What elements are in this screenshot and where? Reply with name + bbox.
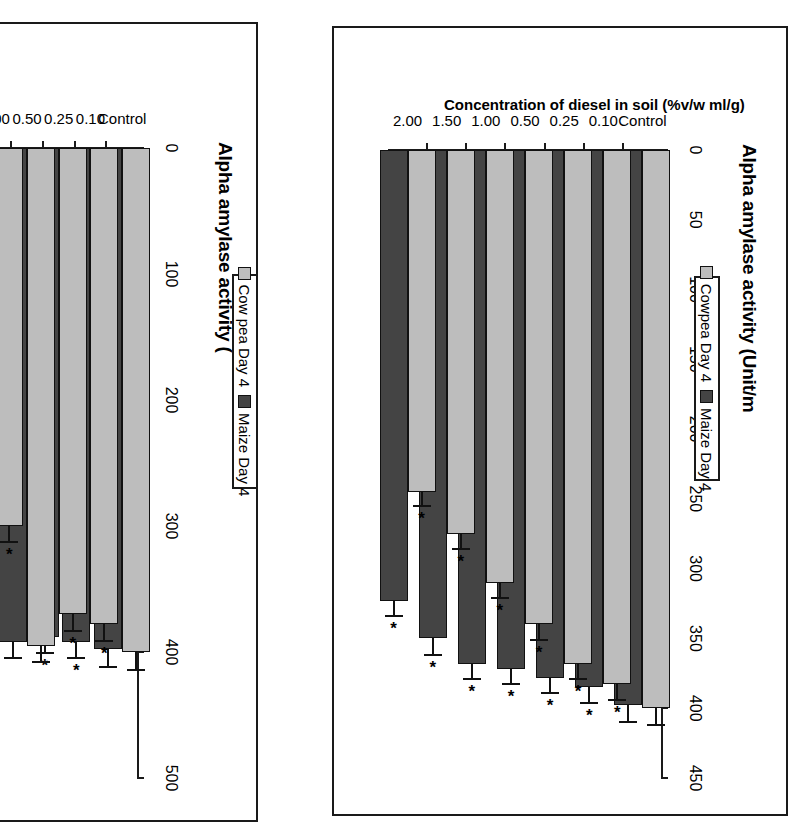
category-axis-label: 1.50 <box>432 112 461 129</box>
value-axis-tick-label: 100 <box>162 254 180 294</box>
significance-marker: * <box>418 509 425 529</box>
significance-marker: * <box>586 706 593 726</box>
legend-swatch-cowpea-icon <box>239 267 252 280</box>
error-bar <box>486 583 514 584</box>
category-axis-tick-mark <box>42 141 44 148</box>
error-bar <box>603 684 631 685</box>
legend-swatch-cowpea-icon <box>701 266 714 279</box>
error-bar <box>525 624 553 625</box>
error-bar <box>94 649 122 650</box>
bar-cowpea <box>564 150 592 664</box>
chart-panel-left: Alpha amylase activity (0100200300400500… <box>0 22 258 822</box>
value-axis-tick-label: 200 <box>162 380 180 420</box>
bar-cowpea <box>525 150 553 624</box>
error-bar <box>458 664 486 665</box>
legend-label-cowpea: Cow pea Day 4 <box>237 285 254 388</box>
significance-marker: * <box>508 687 515 707</box>
category-axis-label: 0.50 <box>12 110 41 127</box>
error-bar <box>0 642 27 643</box>
category-axis-tick-mark <box>105 141 107 148</box>
bar-cowpea <box>486 150 514 583</box>
value-axis-tick-label: 500 <box>162 758 180 798</box>
significance-marker: * <box>457 552 464 572</box>
category-axis-tick-mark <box>10 141 12 148</box>
error-bar <box>62 642 90 643</box>
category-axis-tick-mark <box>74 141 76 148</box>
significance-marker: * <box>614 703 621 723</box>
category-axis-tick-mark <box>426 143 428 150</box>
bar-cowpea <box>447 150 475 534</box>
bar-cowpea <box>0 148 23 526</box>
category-axis-label: 0.25 <box>44 110 73 127</box>
legend-entry-cowpea: Cow pea Day 4 <box>237 267 254 388</box>
chart-legend-left: Cow pea Day 4 Maize Day 4 <box>232 274 258 489</box>
bar-cowpea <box>27 148 55 646</box>
value-axis-tick-label: 450 <box>686 758 704 798</box>
significance-marker: * <box>547 696 554 716</box>
category-axis-label: Control <box>98 110 146 127</box>
value-axis-tick-label: 400 <box>686 688 704 728</box>
significance-marker: * <box>497 601 504 621</box>
legend-entry-maize: Maize Day 4 <box>237 395 254 496</box>
bar-cowpea <box>90 148 118 624</box>
legend-label-maize: Maize Day 4 <box>237 413 254 496</box>
significance-marker: * <box>73 661 80 681</box>
bar-cowpea <box>603 150 631 684</box>
significance-marker: * <box>6 545 13 565</box>
category-axis-label: 0.25 <box>550 112 579 129</box>
error-bar <box>90 624 118 625</box>
significance-marker: * <box>41 656 48 676</box>
category-axis-tick-mark <box>583 143 585 150</box>
error-bar <box>408 492 436 493</box>
category-axis-title: Concentration of diesel in soil (%v/w ml… <box>444 96 745 113</box>
bar-cowpea <box>122 148 150 652</box>
error-bar <box>497 669 525 670</box>
significance-marker: * <box>69 634 76 654</box>
error-bar <box>59 614 87 615</box>
category-axis-label: 1.00 <box>471 112 500 129</box>
significance-marker: * <box>429 658 436 678</box>
significance-marker: * <box>390 619 397 639</box>
error-bar <box>0 526 23 527</box>
bar-cowpea <box>408 150 436 492</box>
error-bar <box>447 534 475 535</box>
category-axis-label: Control <box>618 112 666 129</box>
value-axis-tick-label: 0 <box>686 130 704 170</box>
significance-marker: * <box>575 682 582 702</box>
significance-marker: * <box>101 644 108 664</box>
significance-marker: * <box>469 682 476 702</box>
category-axis-tick-mark <box>465 143 467 150</box>
value-axis-tick-label: 50 <box>686 200 704 240</box>
category-axis-tick-mark <box>544 143 546 150</box>
legend-swatch-maize-icon <box>239 395 252 408</box>
legend-entry-maize: Maize Day 4 <box>699 390 716 491</box>
value-axis-tick-label: 0 <box>162 128 180 168</box>
error-bar <box>27 646 55 647</box>
bar-maize <box>380 150 408 601</box>
value-axis-tick-label: 400 <box>162 632 180 672</box>
error-bar <box>564 664 592 665</box>
chart-legend-right: Cowpea Day 4 Maize Day 4 <box>694 276 720 481</box>
legend-swatch-maize-icon <box>701 390 714 403</box>
legend-label-cowpea: Cowpea Day 4 <box>699 284 716 382</box>
error-bar <box>122 652 150 653</box>
chart-panel-right: Alpha amylase activity (Unit/m0501001502… <box>332 26 788 816</box>
error-bar <box>536 678 564 679</box>
error-bar <box>380 601 408 602</box>
value-axis-title: Alpha amylase activity (Unit/m <box>738 144 760 413</box>
category-axis-label: 0.10 <box>76 110 105 127</box>
value-axis-tick-label: 300 <box>686 549 704 589</box>
legend-label-maize: Maize Day 4 <box>699 408 716 491</box>
category-axis-tick-mark <box>622 143 624 150</box>
category-axis-tick-mark <box>504 143 506 150</box>
category-axis-label: 0.50 <box>510 112 539 129</box>
error-bar <box>642 708 670 709</box>
category-axis-label: 1.00 <box>0 110 10 127</box>
category-axis-label: 2.00 <box>393 112 422 129</box>
significance-marker: * <box>536 643 543 663</box>
legend-entry-cowpea: Cowpea Day 4 <box>699 266 716 382</box>
value-axis-tick-label: 300 <box>162 506 180 546</box>
category-axis-label: 0.10 <box>589 112 618 129</box>
bar-cowpea <box>59 148 87 614</box>
bar-cowpea <box>642 150 670 708</box>
